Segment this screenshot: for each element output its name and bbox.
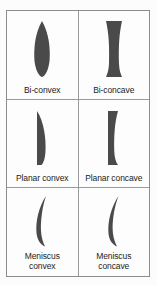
meniscus-convex-lens-icon	[7, 188, 78, 251]
lens-label: Bi-convex	[7, 85, 78, 99]
lens-label: Meniscus convex	[7, 251, 78, 276]
lens-cell-planar-convex: Planar convex	[7, 100, 79, 188]
table-row: Bi-convex Bi-concave	[7, 11, 149, 100]
bi-concave-lens-icon	[79, 11, 150, 85]
planar-concave-lens-icon	[79, 100, 150, 174]
planar-convex-lens-icon	[7, 100, 78, 174]
lens-cell-meniscus-convex: Meniscus convex	[7, 188, 79, 276]
lens-table: Bi-convex Bi-concave Planar con	[6, 10, 150, 277]
bi-convex-lens-icon	[7, 11, 78, 85]
meniscus-concave-lens-icon	[79, 188, 150, 251]
lens-label: Planar convex	[7, 173, 78, 187]
lens-cell-bi-concave: Bi-concave	[79, 11, 150, 99]
lens-cell-meniscus-concave: Meniscus concave	[79, 188, 150, 276]
lens-cell-bi-convex: Bi-convex	[7, 11, 79, 99]
lens-label: Bi-concave	[79, 85, 150, 99]
lens-types-figure: Bi-convex Bi-concave Planar con	[0, 0, 157, 286]
table-row: Planar convex Planar concave	[7, 100, 149, 189]
lens-cell-planar-concave: Planar concave	[79, 100, 150, 188]
lens-label: Meniscus concave	[79, 251, 150, 276]
table-row: Meniscus convex Meniscus concave	[7, 188, 149, 276]
lens-label: Planar concave	[79, 173, 150, 187]
